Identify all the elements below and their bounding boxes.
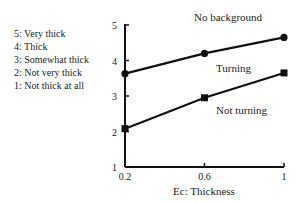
series-label-not-turning: Not turning [216, 104, 268, 116]
circle-marker-icon [121, 70, 128, 77]
line-chart: 123450.20.61 No background Turning Not t… [0, 0, 300, 203]
square-marker-icon [201, 94, 208, 101]
square-marker-icon [281, 69, 288, 76]
x-axis-label: Ec: Thickness [173, 185, 235, 197]
x-tick-label: 0.6 [198, 171, 211, 182]
x-tick-label: 0.2 [119, 171, 132, 182]
chart-title: No background [194, 11, 263, 23]
circle-marker-icon [201, 50, 208, 57]
y-tick-label: 3 [112, 91, 117, 102]
circle-marker-icon [280, 34, 287, 41]
square-marker-icon [122, 125, 129, 132]
y-tick-label: 5 [112, 20, 117, 31]
plot-area [121, 34, 287, 132]
y-tick-label: 1 [112, 162, 117, 173]
y-tick-label: 2 [112, 127, 117, 138]
axes: 123450.20.61 [112, 20, 287, 182]
series-label-turning: Turning [216, 62, 252, 74]
x-tick-label: 1 [282, 171, 287, 182]
y-tick-label: 4 [112, 56, 117, 67]
